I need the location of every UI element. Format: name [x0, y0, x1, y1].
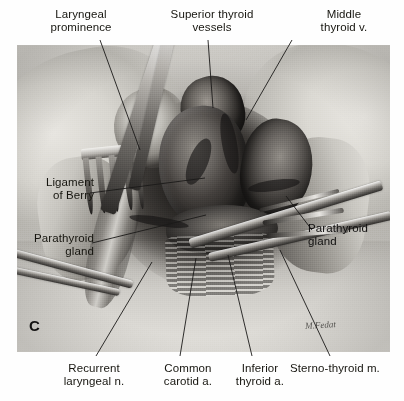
label-sternothyroid-muscle: Sterno-thyroid m.	[290, 362, 398, 375]
label-common-carotid-artery: Common carotid a.	[148, 362, 228, 387]
figure-root: C M.Fedat Laryngeal prominence Superior …	[0, 0, 404, 401]
label-parathyroid-gland-left: Parathyroid gland	[4, 232, 94, 257]
label-laryngeal-prominence: Laryngeal prominence	[22, 8, 140, 33]
figure-letter: C	[29, 317, 40, 334]
label-superior-thyroid-vessels: Superior thyroid vessels	[148, 8, 276, 33]
label-middle-thyroid-vein: Middle thyroid v.	[292, 8, 396, 33]
label-parathyroid-gland-right: Parathyroid gland	[308, 222, 400, 247]
artist-signature: M.Fedat	[305, 319, 336, 331]
label-ligament-of-berry: Ligament of Berry	[8, 176, 94, 201]
label-recurrent-laryngeal-nerve: Recurrent laryngeal n.	[48, 362, 140, 387]
label-inferior-thyroid-artery: Inferior thyroid a.	[224, 362, 296, 387]
